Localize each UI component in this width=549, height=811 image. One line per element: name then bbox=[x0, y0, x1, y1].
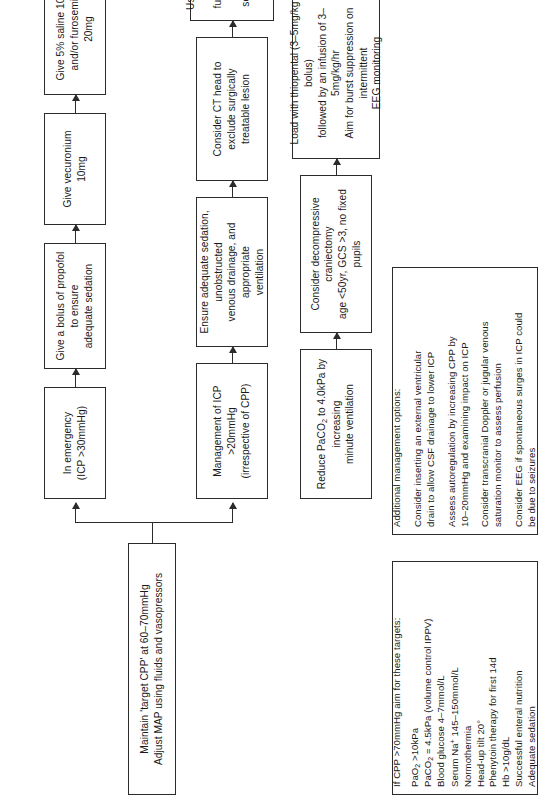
title-box-line-1: Maintain 'target CPP' at 60–70mmHg bbox=[138, 584, 152, 753]
step-craniectomy-line-1: Consider decompressive craniectomy bbox=[309, 183, 336, 325]
step-propofol: Give a bolus of propofol to ensureadequa… bbox=[44, 243, 106, 369]
step-reduce-paco2-line-1: Reduce PaCO2 to 4.0kPa by increasing bbox=[315, 357, 343, 491]
additional-options-box-line-2: Consider inserting an external ventricul… bbox=[412, 351, 425, 527]
step-thiopental-line-3: Aim for burst suppression on intermitten… bbox=[343, 0, 370, 151]
arrow-management-b bbox=[232, 181, 233, 197]
step-ct-head: Consider CT head to exclude surgicallytr… bbox=[196, 37, 268, 181]
additional-options-box-line-9: be due to seizures bbox=[526, 448, 539, 527]
arrow-emergency-c bbox=[75, 95, 76, 113]
step-propofol-line-1: Give a bolus of propofol to ensure bbox=[54, 251, 81, 361]
step-ct-head-line-2: treatable lesion bbox=[239, 74, 253, 144]
arrow-management-g bbox=[336, 159, 337, 175]
title-box: Maintain 'target CPP' at 60–70mmHgAdjust… bbox=[128, 543, 176, 795]
step-saline-boluses-line-1: Use 5% saline 100mL boluses and bbox=[184, 0, 211, 13]
step-craniectomy: Consider decompressive craniectomyage <5… bbox=[300, 175, 372, 333]
step-propofol-line-2: adequate sedation bbox=[82, 264, 96, 349]
targets-box: If CPP >70mmHg aim for these targets:PaO… bbox=[392, 561, 538, 795]
arrow-management-f bbox=[336, 333, 337, 349]
additional-options-box-line-7: saturation monitor to assess perfusion bbox=[492, 363, 505, 527]
additional-options-box: Additional management options:Consider i… bbox=[392, 267, 538, 535]
step-saline-furosemide-line-2: 20mg bbox=[82, 16, 96, 42]
step-sedation-drainage-line-1: Ensure adequate sedation, unobstructed bbox=[198, 205, 225, 339]
targets-box-line-10: Successful enteral nutrition bbox=[513, 670, 526, 787]
targets-box-line-6: Normothermia bbox=[462, 726, 475, 787]
additional-options-box-line-6: Consider transcranial Doppler or jugular… bbox=[479, 321, 492, 527]
step-vecuronium: Give vecuronium 10mg bbox=[44, 113, 106, 225]
additional-options-box-line-3: drain to allow CSF drainage to lower ICP bbox=[425, 352, 438, 527]
branch-header-management-line-1: Management of ICP >20mmHg bbox=[211, 371, 238, 491]
additional-options-box-line-5: 10–20mmHg and examining impact on ICP bbox=[459, 342, 472, 527]
branch-header-emergency-line-2: (ICP >30mmHg) bbox=[75, 406, 89, 480]
step-sedation-drainage-line-3: ventilation bbox=[253, 249, 267, 295]
additional-options-box-line-8: Consider EEG if spontaneous surges in IC… bbox=[513, 313, 526, 527]
branch-header-management: Management of ICP >20mmHg(irrespective o… bbox=[196, 363, 268, 499]
step-saline-furosemide: Give 5% saline 100mL and/or furosemide20… bbox=[44, 0, 106, 95]
step-saline-boluses-line-2: furosemide 10–20mg boluses to achieve: bbox=[211, 0, 238, 13]
targets-box-line-7: Head-up tilt 20° bbox=[475, 720, 488, 787]
branch-header-emergency: In emergency(ICP >30mmHg) bbox=[44, 387, 106, 499]
arrow-to-management-branch bbox=[232, 503, 233, 523]
targets-box-line-9: Hb >10g/dL bbox=[500, 737, 513, 787]
targets-box-line-4: Blood glucose 4–7mmol/L bbox=[435, 675, 448, 787]
targets-box-line-1: If CPP >70mmHg aim for these targets: bbox=[391, 618, 404, 787]
arrow-management-a bbox=[232, 347, 233, 363]
step-ct-head-line-1: Consider CT head to exclude surgically bbox=[211, 45, 238, 173]
step-saline-boluses-line-3: serum Na+ up to 155mmol/L; bbox=[239, 0, 253, 7]
step-sedation-drainage: Ensure adequate sedation, unobstructedve… bbox=[196, 197, 268, 347]
targets-box-line-3: PaCO2 = 4.5kPa (volume control IPPV) bbox=[422, 618, 435, 787]
title-box-line-2: Adjust MAP using fluids and vasopressors bbox=[152, 573, 166, 765]
step-saline-furosemide-line-1: Give 5% saline 100mL and/or furosemide bbox=[54, 0, 81, 87]
additional-options-box-line-4: Assess autoregulation by increasing CPP … bbox=[446, 336, 459, 527]
step-thiopental-line-1: Load with thiopental (3–5mg/kg bolus) bbox=[288, 0, 315, 151]
step-thiopental: Load with thiopental (3–5mg/kg bolus)fol… bbox=[292, 0, 380, 159]
step-reduce-paco2-line-2: minute ventilation bbox=[343, 384, 357, 464]
arrow-emergency-a bbox=[75, 369, 76, 387]
step-reduce-paco2: Reduce PaCO2 to 4.0kPa by increasingminu… bbox=[300, 349, 372, 499]
step-craniectomy-line-2: age <50yr, GCS >3, no fixed pupils bbox=[336, 183, 363, 325]
step-saline-boluses: Use 5% saline 100mL boluses andfurosemid… bbox=[190, 0, 274, 21]
icp-management-flowchart: Maintain 'target CPP' at 60–70mmHgAdjust… bbox=[0, 0, 549, 811]
title-connector-stem bbox=[152, 523, 153, 543]
additional-options-box-line-1: Additional management options: bbox=[391, 388, 404, 527]
title-connector-split bbox=[75, 522, 232, 523]
targets-box-line-11: Adequate sedation bbox=[526, 706, 539, 787]
branch-header-management-line-2: (irrespective of CPP) bbox=[239, 383, 253, 478]
arrow-management-c bbox=[232, 21, 233, 37]
step-thiopental-line-4: EEG monitoring bbox=[370, 37, 384, 110]
step-sedation-drainage-line-2: venous drainage, and appropriate bbox=[225, 205, 252, 339]
branch-header-emergency-line-1: In emergency bbox=[61, 412, 75, 474]
targets-box-line-8: Phenytoin therapy for first 14d bbox=[487, 657, 500, 787]
step-saline-boluses-line-4: fluid balance 0–500mL/d negative bbox=[253, 0, 280, 13]
arrow-to-emergency-branch bbox=[75, 503, 76, 523]
targets-box-line-2: PaO2 >10kPa bbox=[409, 728, 422, 787]
arrow-emergency-b bbox=[75, 225, 76, 243]
step-vecuronium-line-1: Give vecuronium 10mg bbox=[61, 121, 88, 217]
targets-box-line-5: Serum Na+ 145–150mmol/L bbox=[448, 667, 462, 787]
step-thiopental-line-2: followed by an infusion of 3–5mg/kg/hr bbox=[316, 0, 343, 151]
diagram-rotation-wrapper: Maintain 'target CPP' at 60–70mmHgAdjust… bbox=[0, 0, 549, 811]
